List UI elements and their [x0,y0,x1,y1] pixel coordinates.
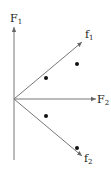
label-F1: F1 [10,12,22,26]
data-point [75,62,79,66]
diagram-canvas: F1 F2 f1 f2 [0,0,111,174]
data-point [44,76,48,80]
data-point [75,146,79,150]
label-f2: f2 [84,152,93,166]
label-F2: F2 [97,93,109,107]
vector-f1 [14,42,82,99]
data-point [44,114,48,118]
vector-f2 [14,99,82,156]
label-f1: f1 [85,28,94,42]
